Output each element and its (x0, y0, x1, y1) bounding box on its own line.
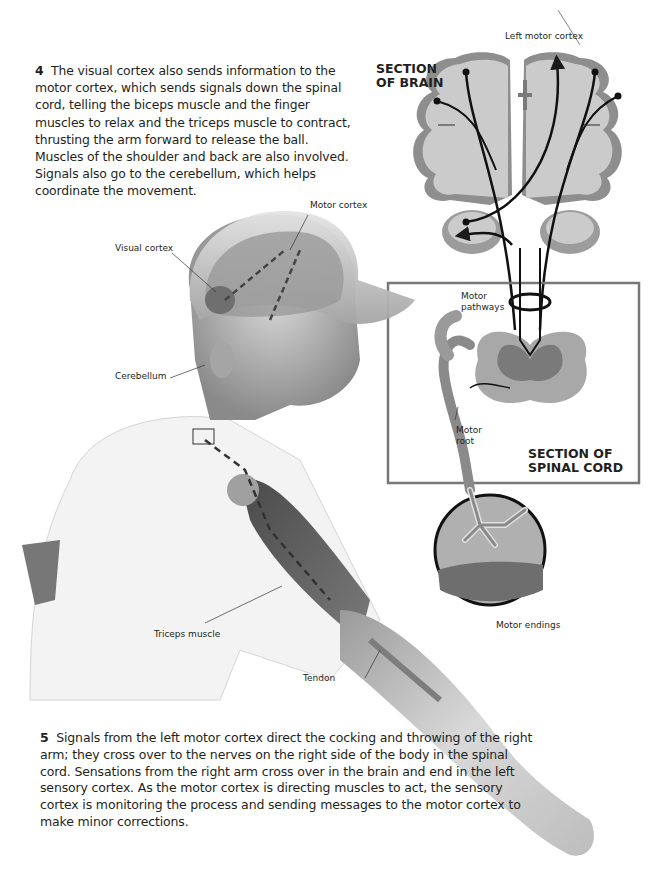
step-4-number: 4 (35, 63, 43, 78)
label-line: Motor (456, 425, 482, 436)
label-line: root (456, 436, 482, 447)
label-line: pathways (461, 302, 504, 313)
step-4-paragraph: 4 The visual cortex also sends informati… (35, 62, 355, 200)
motor-endings-diagram (435, 490, 545, 605)
step-5-paragraph: 5 Signals from the left motor cortex dir… (40, 730, 540, 831)
section-of-brain-heading: SECTION OF BRAIN (376, 62, 443, 90)
label-visual-cortex: Visual cortex (115, 243, 173, 253)
label-motor-root: Motor root (456, 425, 482, 447)
label-left-motor-cortex: Left motor cortex (505, 31, 583, 41)
heading-line: SPINAL CORD (528, 461, 623, 475)
heading-line: SECTION (376, 62, 443, 76)
label-motor-cortex: Motor cortex (310, 200, 367, 210)
heading-line: SECTION OF (528, 447, 623, 461)
label-line: Motor (461, 291, 504, 302)
label-motor-endings: Motor endings (496, 620, 560, 630)
section-of-spinal-cord-heading: SECTION OF SPINAL CORD (528, 447, 623, 475)
label-cerebellum: Cerebellum (115, 371, 167, 381)
label-triceps-muscle: Triceps muscle (154, 629, 220, 639)
step-5-text: Signals from the left motor cortex direc… (40, 730, 532, 829)
step-5-number: 5 (40, 730, 49, 745)
label-motor-pathways: Motor pathways (461, 291, 504, 313)
heading-line: OF BRAIN (376, 76, 443, 90)
label-tendon: Tendon (303, 673, 335, 683)
step-4-text: The visual cortex also sends information… (35, 63, 351, 198)
